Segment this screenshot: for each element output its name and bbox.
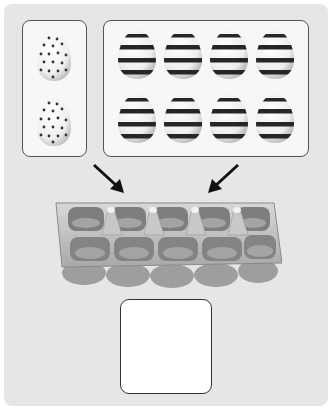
striped-egg-icon: [210, 94, 250, 143]
arrow-down-right-icon: [92, 163, 128, 197]
striped-eggs-grid: [104, 21, 308, 156]
striped-egg-icon: [210, 30, 250, 79]
striped-egg-icon: [118, 94, 158, 143]
arrow-down-left-icon: [204, 163, 240, 197]
striped-eggs-box: [103, 20, 309, 157]
striped-egg-icon: [118, 30, 158, 79]
dotted-egg-icon: [35, 31, 73, 83]
egg-carton-icon: [46, 195, 282, 290]
striped-egg-icon: [256, 94, 296, 143]
striped-egg-icon: [164, 30, 204, 79]
answer-box[interactable]: [120, 299, 212, 394]
dotted-egg-icon: [35, 96, 73, 148]
striped-egg-icon: [256, 30, 296, 79]
dotted-eggs-box: [22, 20, 87, 157]
striped-egg-icon: [164, 94, 204, 143]
